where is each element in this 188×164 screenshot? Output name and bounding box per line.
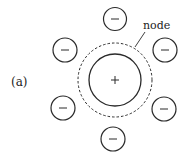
charge-node-diagram: (a) node (0, 0, 188, 164)
panel-label: (a) (11, 75, 28, 89)
negative-charge-bottom-right (152, 97, 176, 121)
node-label: node (143, 19, 170, 32)
negative-charge-top (104, 8, 127, 31)
negative-charge-top-right (153, 38, 177, 62)
negative-charge-bottom (101, 127, 125, 151)
negative-charge-top-left (53, 38, 77, 62)
plus-icon (111, 76, 119, 84)
negative-charge-bottom-left (51, 96, 75, 120)
node-leader-line (135, 32, 145, 47)
